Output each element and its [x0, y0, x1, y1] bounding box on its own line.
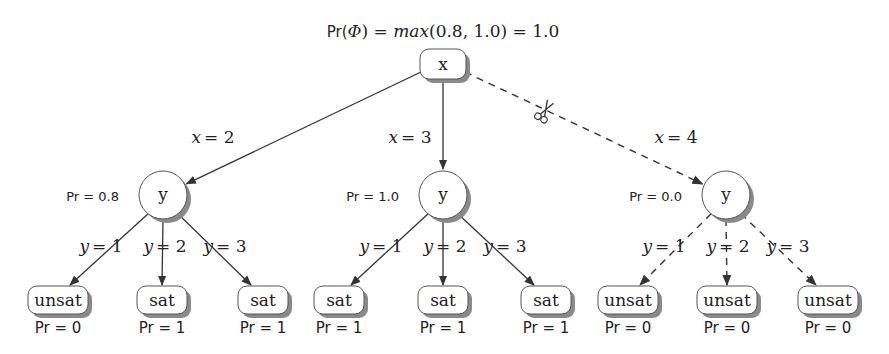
node-label: sat — [326, 290, 352, 310]
node-label: sat — [250, 290, 276, 310]
leaf-probability: Pr = 1 — [316, 319, 363, 337]
node-label: sat — [533, 290, 559, 310]
edge-label-y-2: y= 2 — [705, 236, 749, 256]
edge-label-y-1: y= 1 — [78, 236, 122, 256]
node-label: unsat — [34, 290, 82, 310]
leaf-probability: Pr = 1 — [139, 319, 186, 337]
leaf-node-sat: sat — [137, 286, 191, 318]
edge-label-y-3: y= 3 — [482, 236, 526, 256]
node-label: y — [157, 184, 168, 204]
node-label: sat — [430, 290, 456, 310]
node-probability: Pr = 0.0 — [629, 189, 682, 204]
node-label: x — [438, 54, 448, 74]
probability-title: Pr(Φ) = max(0.8, 1.0) = 1.0 — [327, 21, 560, 41]
leaf-node-unsat: unsat — [798, 286, 862, 318]
node-label: sat — [149, 290, 175, 310]
leaf-probability: Pr = 1 — [420, 319, 467, 337]
scissors-icon — [534, 98, 557, 124]
leaf-probability: Pr = 0 — [805, 319, 852, 337]
leaf-probability: Pr = 0 — [605, 319, 652, 337]
leaf-node-unsat: unsat — [697, 286, 761, 318]
search-tree-diagram: Pr(Φ) = max(0.8, 1.0) = 1.0 xyunsatsatsa… — [0, 0, 889, 354]
root-node-x: x — [420, 49, 470, 83]
node-label: unsat — [604, 290, 652, 310]
leaf-node-unsat: unsat — [598, 286, 662, 318]
leaf-node-sat: sat — [238, 286, 292, 318]
node-label: y — [437, 184, 448, 204]
node-label: unsat — [804, 290, 852, 310]
edge-label-y-1: y= 1 — [641, 236, 685, 256]
leaf-probability: Pr = 0 — [704, 319, 751, 337]
node-label: unsat — [703, 290, 751, 310]
leaf-probability: Pr = 1 — [240, 319, 287, 337]
leaf-node-unsat: unsat — [28, 286, 92, 318]
edge-label-y-1: y= 1 — [358, 236, 402, 256]
edge-label-y-2: y= 2 — [422, 236, 466, 256]
node-probability: Pr = 0.8 — [66, 189, 119, 204]
edge-label-x-4: x= 4 — [654, 127, 697, 147]
leaf-node-sat: sat — [521, 286, 575, 318]
node-label: y — [720, 184, 731, 204]
nodes-layer: xyunsatsatsatysatsatsatyunsatunsatunsat — [28, 49, 862, 318]
edge-label-y-3: y= 3 — [202, 236, 246, 256]
leaf-probability: Pr = 1 — [523, 319, 570, 337]
node-probability: Pr = 1.0 — [346, 189, 399, 204]
leaf-node-sat: sat — [314, 286, 368, 318]
edge-label-x-3: x= 3 — [388, 127, 431, 147]
edge-label-x-2: x= 2 — [191, 127, 234, 147]
edge-label-y-2: y= 2 — [142, 236, 186, 256]
edge-label-y-3: y= 3 — [765, 236, 809, 256]
leaf-node-sat: sat — [418, 286, 472, 318]
leaf-probability: Pr = 0 — [35, 319, 82, 337]
